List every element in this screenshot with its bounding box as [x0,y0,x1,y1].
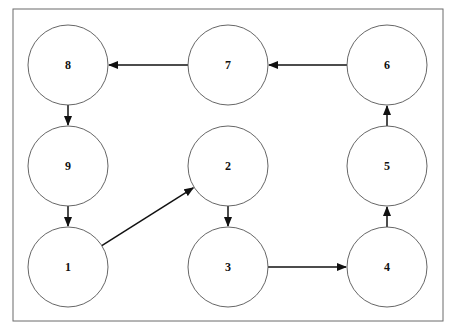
node-label: 9 [65,159,71,173]
node-1: 1 [28,227,108,307]
node-label: 4 [384,260,390,274]
node-8: 8 [28,25,108,105]
node-7: 7 [188,25,268,105]
node-layer: 876925134 [28,25,427,307]
graph-diagram: 876925134 [0,0,454,327]
node-4: 4 [347,227,427,307]
edge-1-to-2 [102,188,194,246]
node-label: 1 [65,260,71,274]
node-label: 2 [225,159,231,173]
node-label: 8 [65,58,71,72]
node-label: 5 [384,159,390,173]
node-6: 6 [347,25,427,105]
node-9: 9 [28,126,108,206]
node-label: 3 [225,260,231,274]
node-label: 7 [225,58,231,72]
node-label: 6 [384,58,390,72]
node-3: 3 [188,227,268,307]
node-5: 5 [347,126,427,206]
node-2: 2 [188,126,268,206]
